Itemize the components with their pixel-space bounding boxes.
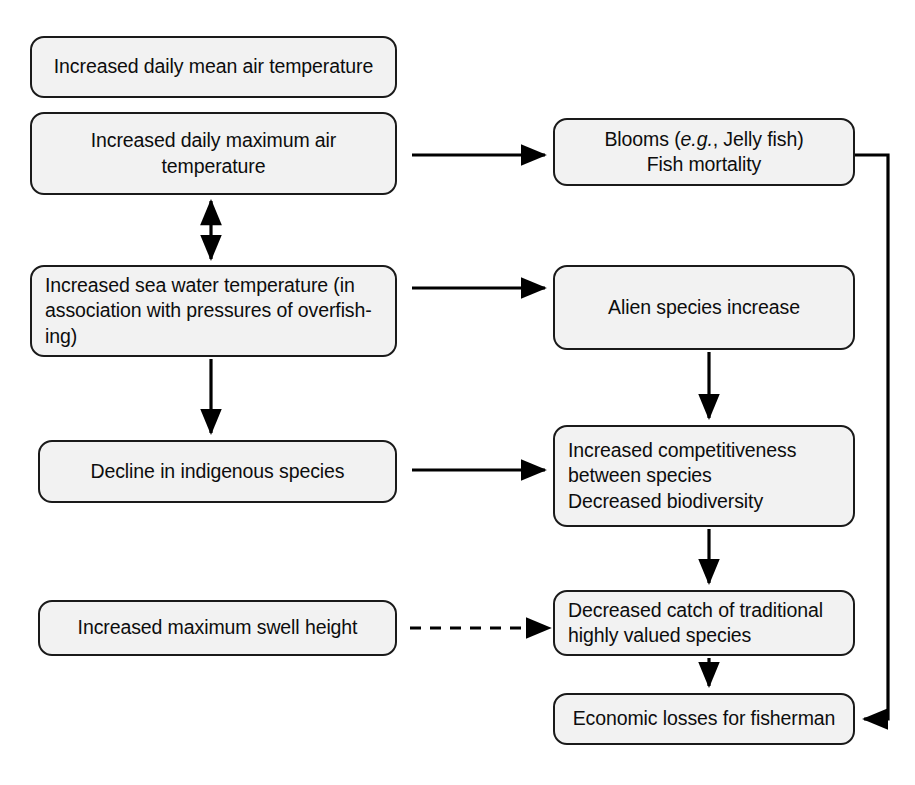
node-label: Increased maximum swell height xyxy=(40,615,395,640)
edge-blooms-to-economic-losses xyxy=(855,155,888,719)
node-decreased-catch[interactable]: Decreased catch of traditional highly va… xyxy=(553,590,855,656)
node-economic-losses[interactable]: Economic losses for fisherman xyxy=(553,693,855,745)
node-label: Decreased catch of traditional highly va… xyxy=(555,598,853,649)
node-label: Increased daily mean air temperature xyxy=(32,54,395,79)
node-daily-max-air-temp[interactable]: Increased daily maximum air temperature xyxy=(30,112,397,195)
node-label: Increased sea water temperature (in asso… xyxy=(32,273,395,349)
node-decline-indigenous-species[interactable]: Decline in indigenous species xyxy=(38,440,397,503)
flow-diagram: Increased daily mean air temperature Inc… xyxy=(0,0,915,785)
node-label: Economic losses for fisherman xyxy=(555,706,853,731)
node-alien-species-increase[interactable]: Alien species increase xyxy=(553,265,855,350)
node-increased-competitiveness[interactable]: Increased competitiveness between specie… xyxy=(553,425,855,527)
node-blooms-fish-mortality[interactable]: Blooms (e.g., Jelly fish)Fish mortality xyxy=(553,118,855,186)
node-label: Increased competitiveness between specie… xyxy=(555,438,853,514)
node-daily-mean-air-temp[interactable]: Increased daily mean air temperature xyxy=(30,36,397,98)
node-label: Increased daily maximum air temperature xyxy=(32,128,395,179)
node-label: Decline in indigenous species xyxy=(40,459,395,484)
node-label: Blooms (e.g., Jelly fish)Fish mortality xyxy=(555,127,853,178)
node-label: Alien species increase xyxy=(555,295,853,320)
node-max-swell-height[interactable]: Increased maximum swell height xyxy=(38,600,397,656)
node-sea-water-temp[interactable]: Increased sea water temperature (in asso… xyxy=(30,265,397,357)
